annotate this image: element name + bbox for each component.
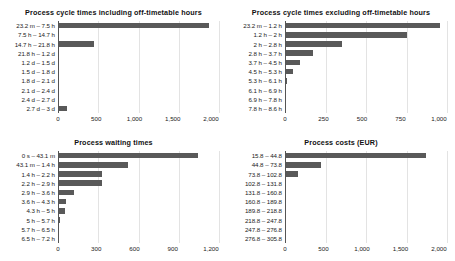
bar[interactable] — [58, 106, 67, 112]
bar-row: 2 h – 2.8 h — [227, 39, 447, 48]
bar-cell — [58, 21, 219, 30]
bar-cell — [58, 160, 219, 169]
plot-area: 23.2 m – 1.2 h1.2 h – 2 h2 h – 2.8 h2.8 … — [227, 21, 455, 113]
category-label: 2.1 d – 2.4 d — [0, 87, 58, 94]
bar-cell — [58, 30, 219, 39]
bar[interactable] — [285, 41, 342, 47]
bar-row: 276.8 – 305.8 — [227, 234, 447, 243]
bar-cell — [285, 85, 447, 94]
bar[interactable] — [285, 153, 426, 159]
x-tick-label: 1,500 — [165, 115, 180, 122]
chart-panel-process-costs: Process costs (EUR) 15.8 – 44.844.8 – 73… — [227, 130, 455, 261]
bar-cell — [58, 169, 219, 178]
x-tick-label: 900 — [168, 245, 178, 252]
category-label: 15.8 – 44.8 — [227, 152, 285, 159]
bar-rows: 23.2 m – 1.2 h1.2 h – 2 h2 h – 2.8 h2.8 … — [227, 21, 447, 113]
bar[interactable] — [58, 41, 94, 47]
bar-cell — [58, 76, 219, 85]
bar-row: 218.8 – 247.8 — [227, 215, 447, 224]
bar-cell — [285, 58, 447, 67]
bar[interactable] — [285, 32, 407, 38]
x-tick-label: 1,000 — [431, 115, 446, 122]
bar-cell — [58, 225, 219, 234]
bar-row: 23.2 m – 1.2 h — [227, 21, 447, 30]
x-tick-label: 0 — [56, 245, 59, 252]
bar-cell — [285, 225, 447, 234]
bar[interactable] — [58, 199, 66, 205]
bar-cell — [58, 215, 219, 224]
y-axis-line — [58, 21, 59, 113]
bar-row: 2.8 h – 3.7 h — [227, 49, 447, 58]
bar-cell — [58, 39, 219, 48]
bar-cell — [58, 188, 219, 197]
bar-row: 247.8 – 276.8 — [227, 225, 447, 234]
category-label: 218.8 – 247.8 — [227, 217, 285, 224]
chart-title: Process costs (EUR) — [227, 130, 455, 147]
bar[interactable] — [58, 153, 198, 159]
bar-row: 6.5 h – 7.2 h — [0, 234, 219, 243]
bar[interactable] — [285, 60, 300, 66]
category-label: 21.8 h – 1.2 d — [0, 50, 58, 57]
bar-row: 6.1 h – 6.9 h — [227, 85, 447, 94]
bar-cell — [285, 30, 447, 39]
bar-row: 2.7 d – 3 d — [0, 104, 219, 113]
bar[interactable] — [58, 208, 65, 214]
category-label: 2.7 d – 3 d — [0, 105, 58, 112]
category-label: 1.5 d – 1.8 d — [0, 68, 58, 75]
bar-cell — [285, 67, 447, 76]
category-label: 6.9 h – 7.8 h — [227, 96, 285, 103]
gridline — [447, 21, 448, 113]
y-axis-line — [58, 151, 59, 243]
bar-row: 1.8 d – 2.1 d — [0, 76, 219, 85]
bar[interactable] — [58, 180, 102, 186]
bar[interactable] — [285, 69, 293, 75]
bar-cell — [285, 160, 447, 169]
bar-row: 5.7 h – 6.5 h — [0, 225, 219, 234]
bar-cell — [285, 234, 447, 243]
bar-row: 44.8 – 73.8 — [227, 160, 447, 169]
bar-cell — [58, 58, 219, 67]
bar[interactable] — [58, 190, 74, 196]
category-label: 4.3 h – 5 h — [0, 207, 58, 214]
bar-cell — [285, 104, 447, 113]
category-label: 4.5 h – 5.3 h — [227, 68, 285, 75]
gridline — [447, 151, 448, 243]
category-label: 1.2 d – 1.5 d — [0, 59, 58, 66]
bar[interactable] — [285, 171, 298, 177]
bar-cell — [58, 151, 219, 160]
x-tick-label: 0 — [56, 115, 59, 122]
x-tick-label: 500 — [357, 115, 367, 122]
bar[interactable] — [58, 162, 128, 168]
x-tick-label: 300 — [91, 245, 101, 252]
bar-row: 2.2 h – 2.9 h — [0, 179, 219, 188]
bar[interactable] — [285, 23, 440, 29]
x-tick-label: 500 — [91, 115, 101, 122]
bar-row: 5.3 h – 6.1 h — [227, 76, 447, 85]
gridline — [219, 21, 220, 113]
x-axis: 05001,0001,5002,000 — [227, 243, 447, 257]
bar-cell — [58, 179, 219, 188]
bar-row: 189.8 – 218.8 — [227, 206, 447, 215]
category-label: 3.6 h – 4.3 h — [0, 198, 58, 205]
bar[interactable] — [285, 50, 313, 56]
x-tick-container: 02505007501,000 — [285, 113, 439, 127]
bar-row: 1.4 h – 2.2 h — [0, 169, 219, 178]
chart-grid: Process cycle times including off-timeta… — [0, 0, 455, 261]
bar-row: 5 h – 5.7 h — [0, 215, 219, 224]
category-label: 43.1 m – 1.4 h — [0, 161, 58, 168]
bar-cell — [285, 169, 447, 178]
category-label: 14.7 h – 21.8 h — [0, 41, 58, 48]
bar[interactable] — [58, 171, 102, 177]
category-label: 7.5 h – 14.7 h — [0, 31, 58, 38]
bar[interactable] — [285, 162, 321, 168]
category-label: 6.1 h – 6.9 h — [227, 87, 285, 94]
bar[interactable] — [58, 23, 209, 29]
bar-cell — [285, 21, 447, 30]
category-label: 23.2 m – 7.5 h — [0, 22, 58, 29]
bar-row: 6.9 h – 7.8 h — [227, 95, 447, 104]
x-tick-label: 600 — [129, 245, 139, 252]
category-label: 247.8 – 276.8 — [227, 226, 285, 233]
category-label: 5.7 h – 6.5 h — [0, 226, 58, 233]
bar-row: 102.8 – 131.8 — [227, 179, 447, 188]
bar-cell — [285, 39, 447, 48]
